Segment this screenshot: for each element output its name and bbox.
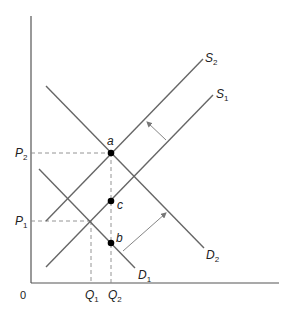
supply-demand-diagram: 0 S2S1D2D1acbP2P1Q1Q2 — [0, 0, 291, 318]
quantity-label-q2: Q2 — [108, 288, 122, 304]
curve-label-s1: S1 — [216, 87, 229, 103]
curves — [39, 59, 213, 268]
demand-shift-arrow — [123, 213, 166, 251]
point-b — [108, 240, 115, 247]
curve-s1 — [46, 95, 213, 267]
supply-shift-arrow — [147, 122, 166, 140]
curve-d2 — [46, 86, 204, 248]
quantity-label-q1: Q1 — [85, 288, 99, 304]
axes: 0 — [20, 16, 279, 301]
point-label-a: a — [107, 134, 114, 148]
origin-label: 0 — [20, 289, 26, 301]
point-a — [108, 150, 115, 157]
curve-label-s2: S2 — [205, 51, 218, 67]
point-label-b: b — [116, 231, 123, 245]
price-label-p1: P1 — [15, 214, 28, 230]
curve-s2 — [46, 59, 203, 221]
curve-label-d1: D1 — [138, 268, 152, 284]
price-label-p2: P2 — [15, 146, 28, 162]
point-c — [108, 198, 115, 205]
curve-d1 — [39, 169, 135, 268]
point-label-c: c — [117, 198, 123, 212]
curve-label-d2: D2 — [206, 248, 220, 264]
